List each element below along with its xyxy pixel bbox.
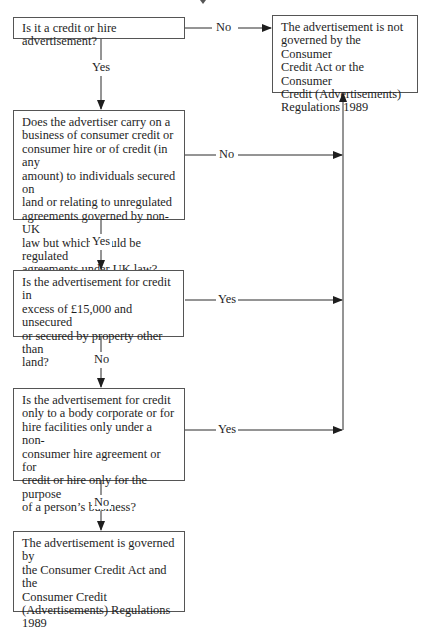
decision-advertiser-business: Does the advertiser carry on a business … [13, 110, 185, 220]
node-text: The advertisement is not governed by the… [281, 21, 410, 115]
edge-label-q1-no: No [214, 21, 233, 34]
decision-body-corporate-or-business: Is the advertisement for credit only to … [13, 388, 185, 481]
node-text: Is it a credit or hire advertisement? [22, 22, 177, 49]
title-fragment-icon [200, 0, 206, 4]
edge-label-q2-yes: Yes [90, 235, 112, 248]
edge-label-q3-yes: Yes [216, 293, 238, 306]
decision-credit-over-15000: Is the advertisement for credit in exces… [13, 270, 184, 337]
edge-label-q1-yes: Yes [90, 61, 112, 74]
edge-label-q4-no: No [92, 496, 111, 509]
decision-credit-or-hire: Is it a credit or hire advertisement? [13, 17, 185, 39]
outcome-not-governed: The advertisement is not governed by the… [272, 15, 418, 93]
outcome-governed: The advertisement is governed by the Con… [13, 531, 185, 612]
edge-label-q2-no: No [217, 148, 236, 161]
node-text: Does the advertiser carry on a business … [22, 116, 177, 277]
edge-label-q3-no: No [92, 353, 111, 366]
edge-label-q4-yes: Yes [216, 423, 238, 436]
node-text: The advertisement is governed by the Con… [22, 537, 177, 631]
